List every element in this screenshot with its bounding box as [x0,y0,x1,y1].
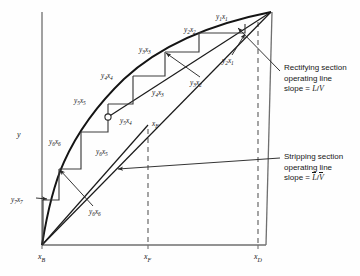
label-leader-arrows [36,34,245,206]
y-axis-label: y [17,130,21,139]
stripping-section-note: Stripping section operating line slope =… [284,152,343,184]
feed-stage-marker [105,114,111,120]
stage-label-y5x5: y5x5 [74,97,86,106]
stage-label-y2x2: y2x2 [184,26,196,35]
stage-label-y7x6: y6x6 [89,208,101,217]
x-axis-label-xB: xB [38,252,45,263]
stripping-slope-denominator: V [319,173,324,184]
stage-label-y1x1: y1x1 [216,13,228,22]
stage-label-y6x6: y6x6 [49,138,61,147]
x-axis-label-xD: xD [254,252,262,263]
stripping-note-leader [118,158,280,169]
stage-label-y3x2: y3x2 [190,79,202,88]
rectifying-note-line1: Rectifying section [284,63,347,74]
stage-label-y7x7: y7x7 [11,196,23,205]
stage-label-y2x1: y2x1 [222,57,234,66]
stage-label-y6x5: y6x5 [96,148,108,157]
feed-point-label: xF [152,120,159,129]
stage-label-y3x3: y3x3 [139,46,151,55]
x-axis-label-xF: xF [144,252,151,263]
rectifying-section-note: Rectifying section operating line slope … [284,63,347,95]
rectifying-note-slope: slope = L/V [284,84,347,95]
rectifying-note-line2: operating line [284,74,347,85]
stage-label-y4x4: y4x4 [101,72,113,81]
stage-label-y4x3: y4x3 [152,89,164,98]
stripping-slope-numerator: L [312,173,316,184]
mccabe-thiele-figure: y xB xF xD xF y1x1 y2x2 y3x3 y4x4 y5x5 y… [0,0,360,276]
stage-staircase [43,24,245,245]
stripping-note-line1: Stripping section [284,152,343,163]
rectifying-note-leader [238,28,280,71]
stripping-note-slope: slope = L/V [284,173,343,184]
stage-label-y5x4: y5x4 [120,117,132,126]
rectifying-slope-denominator: V [319,84,324,93]
